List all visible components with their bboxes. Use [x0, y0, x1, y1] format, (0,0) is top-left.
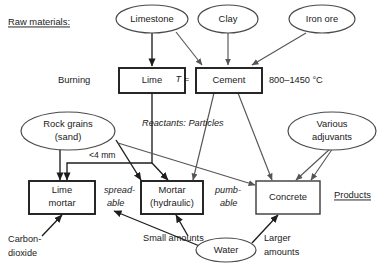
node-cement[interactable]: Cement	[196, 68, 262, 93]
pumpable-label-line2: able	[220, 198, 237, 208]
node-iron-ore[interactable]: Iron ore	[289, 5, 355, 33]
lime-mortar-label-line1: Lime	[52, 184, 72, 195]
lime-mortar-label-line2: mortar	[48, 197, 75, 208]
edge-carbon-dioxide-to-lime-mortar	[42, 215, 62, 236]
node-mortar-hydraulic[interactable]: Mortar (hydraulic)	[141, 181, 203, 214]
edge-group-adjuvants	[296, 148, 333, 180]
rock-grains-label-line2: (sand)	[55, 131, 82, 142]
cement-production-flow-diagram: Limestone Clay Iron ore Lime Cement Rock…	[0, 0, 388, 276]
edge-rock-grains-to-concrete	[118, 143, 255, 185]
rock-grains-label-line1: Rock grains	[43, 118, 93, 129]
node-clay[interactable]: Clay	[198, 5, 258, 33]
edge-adjuvants-to-concrete	[296, 148, 331, 180]
node-rock-grains[interactable]: Rock grains (sand)	[21, 112, 115, 150]
iron-ore-label: Iron ore	[306, 13, 338, 24]
clay-label: Clay	[219, 13, 238, 24]
small-amounts-label: Small amounts	[143, 233, 204, 243]
carbon-dioxide-label-line2: dioxide	[8, 248, 37, 258]
edge-limestone-to-cement	[176, 32, 202, 65]
node-lime-mortar[interactable]: Lime mortar	[29, 181, 95, 214]
edge-iron-ore-to-cement	[252, 33, 306, 65]
edge-group-raw-to-kiln	[152, 32, 306, 66]
temperature-prefix-label: T =	[175, 74, 189, 84]
various-adjuvants-label-line1: Various	[316, 118, 347, 129]
node-concrete[interactable]: Concrete	[256, 181, 320, 214]
larger-amounts-label-line2: amounts	[264, 247, 300, 257]
lime-label: Lime	[142, 74, 162, 85]
larger-amounts-label-line1: Larger	[264, 233, 291, 243]
cement-label: Cement	[213, 74, 246, 85]
reactants-particles-label: Reactants: Particles	[142, 118, 224, 128]
spreadable-label-line1: spread-	[104, 185, 135, 195]
concrete-label: Concrete	[269, 191, 307, 202]
products-heading: Products	[334, 189, 371, 200]
limestone-label: Limestone	[130, 13, 173, 24]
diagram-canvas: Limestone Clay Iron ore Lime Cement Rock…	[0, 0, 388, 276]
node-limestone[interactable]: Limestone	[116, 5, 188, 33]
edge-cement-to-concrete	[238, 93, 272, 180]
node-water[interactable]: Water	[196, 238, 256, 262]
edge-lime-to-mortar	[152, 163, 168, 180]
water-label: Water	[214, 244, 239, 255]
mortar-label-line2: (hydraulic)	[150, 197, 194, 208]
mortar-label-line1: Mortar	[158, 184, 185, 195]
carbon-dioxide-label-line1: Carbon-	[8, 234, 41, 244]
node-various-adjuvants[interactable]: Various adjuvants	[288, 112, 376, 150]
various-adjuvants-label-line2: adjuvants	[312, 131, 352, 142]
raw-materials-heading: Raw materials:	[8, 16, 70, 27]
burning-stage-label: Burning	[58, 74, 90, 85]
temperature-range-label: 800–1450 °C	[269, 75, 323, 85]
grain-size-label: <4 mm	[89, 150, 116, 160]
pumpable-label-line1: pumb-	[214, 185, 241, 195]
spreadable-label-line2: able	[107, 198, 124, 208]
